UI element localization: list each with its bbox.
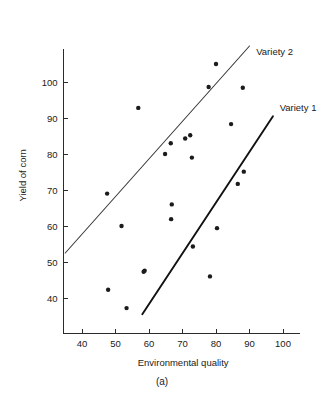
y-axis-tick-label: 60 — [47, 221, 58, 232]
data-point — [142, 268, 146, 272]
data-point — [188, 133, 192, 137]
data-point — [106, 288, 110, 292]
data-point — [163, 152, 167, 156]
y-axis-tick-label: 50 — [47, 257, 58, 268]
x-axis-tick-label: 50 — [110, 338, 121, 349]
data-point — [119, 224, 123, 228]
data-point — [214, 62, 218, 66]
data-point — [105, 191, 109, 195]
x-axis-tick-label: 60 — [144, 338, 155, 349]
scatter-plot-figure: 405060708090100405060708090100Environmen… — [0, 0, 325, 397]
regression-line-variety-1 — [142, 116, 273, 314]
x-axis-tick-label: 80 — [211, 338, 222, 349]
data-point — [136, 106, 140, 110]
data-point — [215, 226, 219, 230]
series-label-variety-1: Variety 1 — [280, 102, 317, 113]
x-axis-tick-label: 70 — [177, 338, 188, 349]
panel-label: (a) — [156, 376, 168, 387]
data-point — [229, 122, 233, 126]
data-point — [190, 155, 194, 159]
y-axis-tick-label: 70 — [47, 185, 58, 196]
axis-spines — [64, 49, 301, 333]
data-point — [208, 274, 212, 278]
y-axis-tick-label: 100 — [42, 77, 58, 88]
data-point — [242, 169, 246, 173]
y-axis-tick-label: 80 — [47, 149, 58, 160]
data-point — [236, 182, 240, 186]
y-axis-tick-label: 90 — [47, 113, 58, 124]
data-point — [169, 217, 173, 221]
x-axis-tick-label: 90 — [244, 338, 255, 349]
data-point — [183, 136, 187, 140]
y-axis-title: Yield of corn — [17, 149, 28, 201]
data-point — [206, 85, 210, 89]
data-point — [169, 141, 173, 145]
data-point — [191, 244, 195, 248]
plot-canvas: 405060708090100405060708090100Environmen… — [0, 0, 325, 397]
data-point — [170, 202, 174, 206]
data-point — [124, 306, 128, 310]
series-label-variety-2: Variety 2 — [256, 46, 293, 57]
x-axis-tick-label: 40 — [77, 338, 88, 349]
y-axis-tick-label: 40 — [47, 293, 58, 304]
regression-line-variety-2 — [65, 46, 249, 253]
x-axis-title: Environmental quality — [138, 357, 229, 368]
x-axis-tick-label: 100 — [275, 338, 291, 349]
data-point — [241, 86, 245, 90]
